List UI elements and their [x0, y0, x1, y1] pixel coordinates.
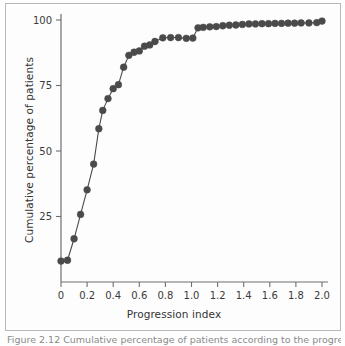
x-tick-label: 1.2: [210, 290, 226, 301]
data-point-marker: [95, 125, 102, 132]
data-point-marker: [120, 64, 127, 71]
data-point-marker: [265, 20, 272, 27]
data-point-marker: [298, 19, 305, 26]
data-point-marker: [58, 258, 65, 265]
data-point-marker: [189, 35, 196, 42]
data-point-marker: [278, 20, 285, 27]
data-point-marker: [159, 34, 166, 41]
data-point-marker: [152, 38, 159, 45]
x-tick-label: 1.8: [288, 290, 304, 301]
chart-frame: 25507510000.20.40.60.81.01.21.41.61.82.0…: [5, 3, 341, 331]
data-point-marker: [84, 186, 91, 193]
data-point-marker: [90, 161, 97, 168]
data-point-marker: [206, 23, 213, 30]
data-point-marker: [213, 23, 220, 30]
data-point-marker: [252, 21, 259, 28]
data-point-marker: [285, 20, 292, 27]
data-point-marker: [272, 20, 279, 27]
data-point-marker: [291, 20, 298, 27]
x-tick-label: 0.2: [79, 290, 95, 301]
x-tick-label: 1.4: [236, 290, 252, 301]
data-point-marker: [136, 48, 143, 55]
x-tick-label: 0.8: [157, 290, 173, 301]
figure-container: 25507510000.20.40.60.81.01.21.41.61.82.0…: [0, 0, 345, 346]
data-point-marker: [167, 34, 174, 41]
data-point-marker: [183, 35, 190, 42]
data-point-marker: [246, 21, 253, 28]
x-tick-label: 0: [58, 290, 64, 301]
data-point-marker: [306, 19, 313, 26]
y-tick-label: 75: [39, 80, 52, 91]
data-point-marker: [105, 95, 112, 102]
data-point-marker: [200, 24, 207, 31]
data-point-marker: [319, 18, 326, 25]
x-tick-label: 0.4: [105, 290, 121, 301]
data-point-marker: [239, 21, 246, 28]
x-tick-label: 2.0: [314, 290, 330, 301]
y-tick-label: 25: [39, 211, 52, 222]
x-tick-label: 1.0: [184, 290, 200, 301]
x-axis-title: Progression index: [6, 308, 341, 320]
data-point-marker: [99, 107, 106, 114]
data-point-marker: [226, 22, 233, 29]
x-tick-label: 1.6: [262, 290, 278, 301]
data-point-marker: [232, 22, 239, 29]
chart-plot-area: 25507510000.20.40.60.81.01.21.41.61.82.0: [6, 4, 341, 331]
y-tick-label: 50: [39, 146, 52, 157]
data-point-marker: [259, 20, 266, 27]
y-axis-title: Cumulative percentage of patients: [23, 50, 35, 250]
series-line: [61, 21, 322, 261]
data-point-marker: [219, 22, 226, 29]
data-point-marker: [175, 34, 182, 41]
data-point-marker: [115, 81, 122, 88]
data-point-marker: [77, 211, 84, 218]
figure-caption: Figure 2.12 Cumulative percentage of pat…: [7, 333, 341, 346]
y-tick-label: 100: [33, 15, 52, 26]
data-point-marker: [71, 235, 78, 242]
data-point-marker: [64, 257, 71, 264]
x-tick-label: 0.6: [131, 290, 147, 301]
